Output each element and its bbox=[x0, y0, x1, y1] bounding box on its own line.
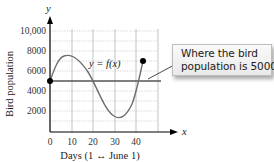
x-tick-10: 10 bbox=[67, 137, 77, 147]
y-tick-8000: 8000 bbox=[27, 46, 46, 56]
y-tick-10000: 10,000 bbox=[20, 26, 46, 36]
x-tick-0: 0 bbox=[48, 137, 53, 147]
x-tick-20: 20 bbox=[88, 137, 98, 147]
y-axis-arrow-icon bbox=[47, 16, 53, 24]
y-tick-4000: 4000 bbox=[27, 86, 46, 96]
callout-line-2: population is 5000 bbox=[181, 60, 267, 73]
y-tick-2000: 2000 bbox=[27, 106, 46, 116]
x-axis-title: Days (1 ↔ June 1) bbox=[60, 150, 140, 162]
start-point bbox=[47, 78, 53, 84]
y-variable-label: y bbox=[45, 3, 51, 14]
grid bbox=[50, 31, 158, 121]
callout-line-1: Where the bird bbox=[181, 47, 267, 60]
y-axis-title: Bird population bbox=[4, 50, 15, 117]
x-tick-30: 30 bbox=[110, 137, 120, 147]
callout-box: Where the bird population is 5000 bbox=[172, 44, 272, 76]
x-axis-arrow-icon bbox=[170, 129, 178, 135]
x-variable-label: x bbox=[181, 126, 187, 137]
x-tick-40: 40 bbox=[131, 137, 141, 147]
chart-canvas: y x 10,000 8000 6000 4000 2000 0 10 20 3… bbox=[0, 0, 274, 162]
curve-label: y = f(x) bbox=[88, 58, 121, 70]
y-tick-6000: 6000 bbox=[27, 66, 46, 76]
end-point bbox=[140, 58, 146, 64]
